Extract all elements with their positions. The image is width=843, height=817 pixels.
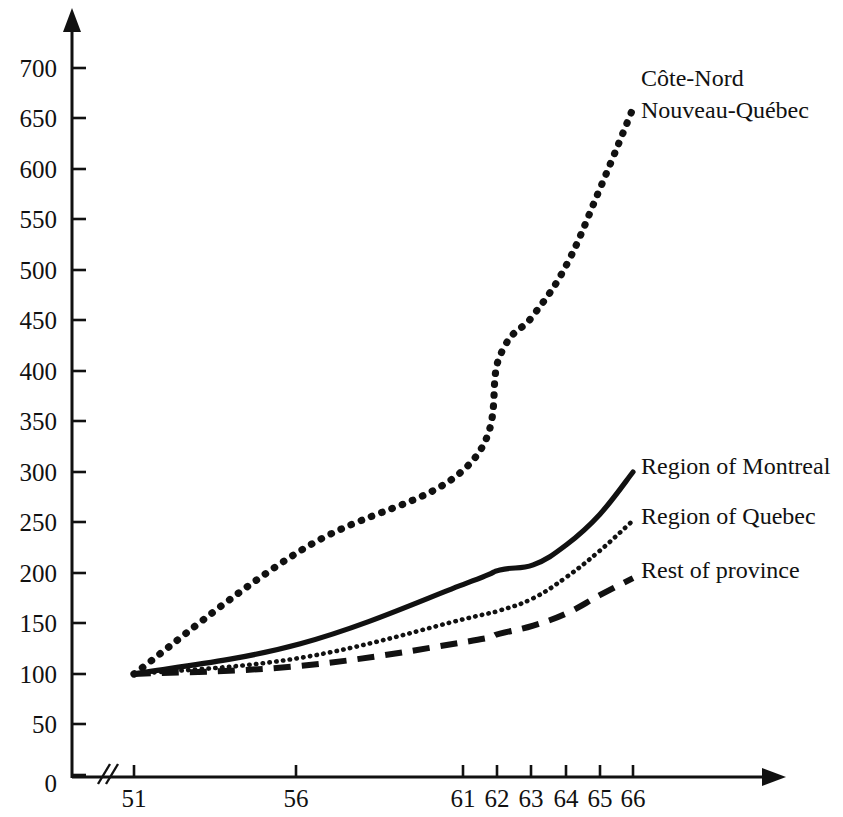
series-line-region-of-quebec [134,520,633,674]
x-tick-label-63: 63 [519,785,544,812]
x-axis-tick-labels: 51 56 61 62 63 64 65 66 [122,785,646,812]
x-axis-ticks [134,765,633,777]
y-tick-label-300: 300 [20,459,58,486]
y-tick-label-600: 600 [20,156,58,183]
y-tick-label-350: 350 [20,408,58,435]
y-tick-label-150: 150 [20,610,58,637]
x-axis-arrow-icon [762,768,786,786]
y-tick-label-200: 200 [20,560,58,587]
series-label-cote-nord-line1: Côte-Nord [641,65,744,91]
series-label-cote-nord-line2: Nouveau-Québec [641,97,809,123]
y-axis-tick-labels: 0 50 100 150 200 250 300 350 400 450 500… [20,55,58,797]
series-line-cote-nord-nouveau-quebec [134,108,633,674]
y-tick-label-550: 550 [20,206,58,233]
y-tick-label-0: 0 [45,770,58,797]
y-tick-label-650: 650 [20,105,58,132]
y-tick-label-400: 400 [20,358,58,385]
series-line-rest-of-province [134,578,633,674]
series-label-rest-of-province: Rest of province [641,557,800,583]
x-tick-label-61: 61 [451,785,476,812]
y-tick-label-500: 500 [20,257,58,284]
y-tick-label-700: 700 [20,55,58,82]
line-chart-figure: 0 50 100 150 200 250 300 350 400 450 500… [0,0,843,817]
series-layer [134,108,633,674]
series-label-region-of-montreal: Region of Montreal [641,453,831,479]
y-axis-ticks [72,68,86,775]
y-axis-arrow-icon [63,8,81,32]
y-tick-label-50: 50 [32,711,57,738]
x-tick-label-62: 62 [485,785,510,812]
x-tick-label-56: 56 [284,785,309,812]
x-tick-label-64: 64 [554,785,580,812]
chart-container: 0 50 100 150 200 250 300 350 400 450 500… [0,0,843,817]
x-tick-label-51: 51 [122,785,147,812]
y-tick-label-250: 250 [20,509,58,536]
series-label-region-of-quebec: Region of Quebec [641,503,816,529]
series-labels: Côte-Nord Nouveau-Québec Region of Montr… [641,65,831,583]
y-tick-label-100: 100 [20,661,58,688]
x-axis-break-mark [98,764,118,784]
y-tick-label-450: 450 [20,307,58,334]
x-tick-label-66: 66 [621,785,646,812]
series-line-region-of-montreal [134,472,633,674]
x-tick-label-65: 65 [588,785,613,812]
